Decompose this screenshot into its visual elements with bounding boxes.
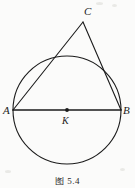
side-cb (83, 22, 121, 110)
vertex-label-k: K (62, 116, 69, 126)
center-point-k-dot (65, 108, 69, 112)
vertex-label-a: A (3, 105, 10, 116)
side-ac (13, 22, 83, 110)
geometry-canvas (0, 0, 135, 188)
vertex-label-b: B (123, 105, 130, 116)
figure-caption: 图 5.4 (0, 177, 135, 187)
geometry-figure: A B C K 图 5.4 (0, 0, 135, 188)
vertex-label-c: C (84, 6, 91, 17)
